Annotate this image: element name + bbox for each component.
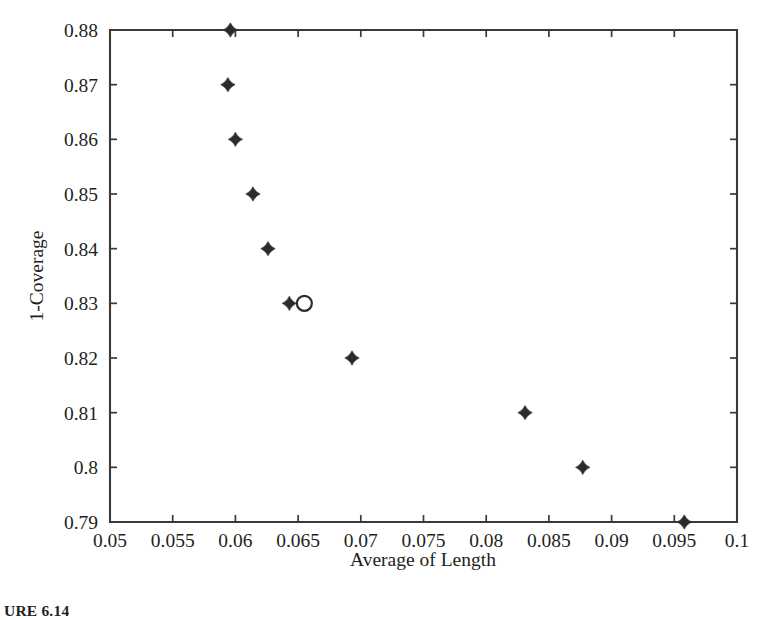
data-point-diamond xyxy=(518,405,532,419)
data-point-diamond xyxy=(261,241,275,255)
y-axis-tick-labels: 0.790.80.810.820.830.840.850.860.870.88 xyxy=(64,20,98,533)
x-tick-label: 0.075 xyxy=(402,530,446,551)
y-tick-label: 0.85 xyxy=(64,184,98,205)
x-tick-label: 0.07 xyxy=(344,530,378,551)
data-point-diamond xyxy=(345,351,359,365)
data-point-diamond xyxy=(576,460,590,474)
y-tick-label: 0.83 xyxy=(64,293,98,314)
data-point-diamond xyxy=(677,515,691,529)
data-point-open-circle xyxy=(297,296,312,311)
x-tick-label: 0.095 xyxy=(652,530,696,551)
x-tick-label: 0.085 xyxy=(527,530,571,551)
scatter-plot: 0.050.0550.060.0650.070.0750.080.0850.09… xyxy=(0,0,776,620)
x-tick-label: 0.065 xyxy=(276,530,320,551)
data-point-diamond xyxy=(246,187,260,201)
x-tick-label: 0.055 xyxy=(151,530,195,551)
figure-container: 0.050.0550.060.0650.070.0750.080.0850.09… xyxy=(0,0,776,620)
y-tick-label: 0.8 xyxy=(74,457,98,478)
x-tick-label: 0.06 xyxy=(218,530,252,551)
data-point-diamond xyxy=(221,77,235,91)
x-axis-title: Average of Length xyxy=(350,549,496,570)
data-point-diamond xyxy=(282,296,296,310)
plot-frame xyxy=(110,30,737,522)
x-tick-label: 0.05 xyxy=(93,530,127,551)
x-tick-label: 0.09 xyxy=(595,530,629,551)
data-markers xyxy=(221,23,692,529)
data-point-diamond xyxy=(228,132,242,146)
y-tick-label: 0.87 xyxy=(64,75,98,96)
figure-caption: URE 6.14 xyxy=(4,601,69,620)
y-tick-label: 0.82 xyxy=(64,348,98,369)
plot-border xyxy=(110,30,737,522)
y-tick-label: 0.88 xyxy=(64,20,98,41)
x-tick-label: 0.08 xyxy=(469,530,503,551)
x-axis-tick-labels: 0.050.0550.060.0650.070.0750.080.0850.09… xyxy=(93,530,749,551)
x-tick-label: 0.1 xyxy=(725,530,749,551)
y-axis-title: 1-Coverage xyxy=(26,231,47,322)
y-tick-label: 0.79 xyxy=(64,512,98,533)
y-tick-label: 0.84 xyxy=(64,239,98,260)
y-tick-label: 0.86 xyxy=(64,129,98,150)
y-tick-label: 0.81 xyxy=(64,403,98,424)
